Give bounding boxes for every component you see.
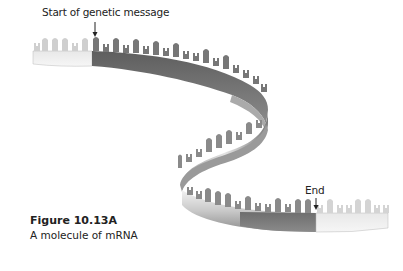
trailer-region-bottom bbox=[316, 199, 389, 232]
coding-region-top bbox=[92, 37, 268, 132]
leader-region-top bbox=[33, 38, 92, 66]
coding-region-bottom bbox=[182, 187, 316, 232]
figure-description: A molecule of mRNA bbox=[30, 228, 138, 242]
figure-number: Figure 10.13A bbox=[30, 214, 138, 228]
start-arrow-icon bbox=[93, 22, 98, 37]
end-label: End bbox=[305, 184, 324, 196]
figure-caption: Figure 10.13A A molecule of mRNA bbox=[30, 214, 138, 242]
start-of-message-label: Start of genetic message bbox=[42, 6, 169, 18]
coding-region-middle bbox=[178, 110, 268, 192]
